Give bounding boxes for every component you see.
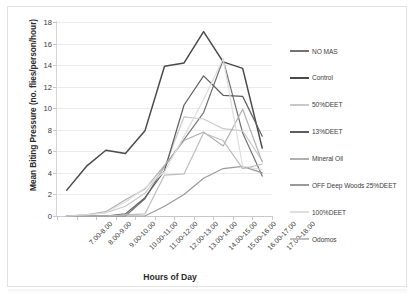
- y-axis-tick-label: 10: [38, 104, 52, 113]
- legend-label-13-deet: 13%DEET: [312, 128, 342, 135]
- y-axis-tick-label: 6: [38, 147, 52, 156]
- y-axis-tick-label: 12: [38, 82, 52, 91]
- chart-legend: NO MASControl50%DEET13%DEETMineral OilOF…: [290, 44, 412, 259]
- chart-screenshot: Mean Biting Pressure (no. flies/person/h…: [0, 0, 415, 301]
- legend-label-control: Control: [312, 74, 333, 81]
- plot-area: [57, 22, 272, 216]
- y-axis-tick-labels: 024681012141618: [36, 22, 52, 216]
- legend-swatch-50-deet: [290, 104, 309, 106]
- legend-swatch-13-deet: [290, 131, 309, 133]
- x-axis-tick-labels: 7.00-8.008.00-9.009.00-10.0010.00-11.001…: [57, 220, 287, 275]
- legend-item-13-deet[interactable]: 13%DEET: [290, 127, 342, 137]
- legend-item-off-deep-woods-25-deet[interactable]: OFF Deep Woods 25%DEET: [290, 180, 397, 190]
- y-axis-tick-label: 16: [38, 39, 52, 48]
- legend-swatch-no-mas: [290, 50, 309, 52]
- y-axis-tick-label: 2: [38, 190, 52, 199]
- legend-item-no-mas[interactable]: NO MAS: [290, 46, 338, 56]
- y-axis-tick-label: 0: [38, 212, 52, 221]
- legend-swatch-off-deep-woods-25-deet: [290, 184, 309, 186]
- legend-item-50-deet[interactable]: 50%DEET: [290, 100, 342, 110]
- legend-label-odomos: Odomos: [312, 236, 337, 243]
- legend-swatch-mineral-oil: [290, 158, 309, 160]
- legend-label-50-deet: 50%DEET: [312, 101, 342, 108]
- legend-item-100-deet[interactable]: 100%DEET: [290, 207, 346, 217]
- legend-item-odomos[interactable]: Odomos: [290, 234, 337, 244]
- legend-item-control[interactable]: Control: [290, 73, 333, 83]
- legend-swatch-odomos: [290, 238, 309, 240]
- legend-label-no-mas: NO MAS: [312, 48, 338, 55]
- y-axis-tick-label: 4: [38, 168, 52, 177]
- legend-label-off-deep-woods-25-deet: OFF Deep Woods 25%DEET: [312, 182, 397, 189]
- legend-label-100-deet: 100%DEET: [312, 209, 346, 216]
- legend-item-mineral-oil[interactable]: Mineral Oil: [290, 154, 343, 164]
- legend-swatch-control: [290, 77, 309, 80]
- y-axis-tick-label: 8: [38, 125, 52, 134]
- series-line-no-mas: [67, 60, 262, 216]
- figure-frame-shadow: [8, 289, 407, 294]
- legend-swatch-100-deet: [290, 211, 309, 213]
- x-axis-title: Hours of Day: [80, 272, 260, 282]
- series-line-50-deet: [67, 117, 262, 216]
- legend-label-mineral-oil: Mineral Oil: [312, 155, 343, 162]
- series-line-off-deep-woods-25-deet: [67, 166, 262, 216]
- series-line-mineral-oil: [67, 109, 262, 216]
- y-axis-tick-label: 18: [38, 18, 52, 27]
- series-lines-group: [57, 22, 272, 216]
- series-line-odomos: [67, 133, 262, 216]
- y-axis-tick-label: 14: [38, 61, 52, 70]
- series-line-100-deet: [67, 59, 262, 216]
